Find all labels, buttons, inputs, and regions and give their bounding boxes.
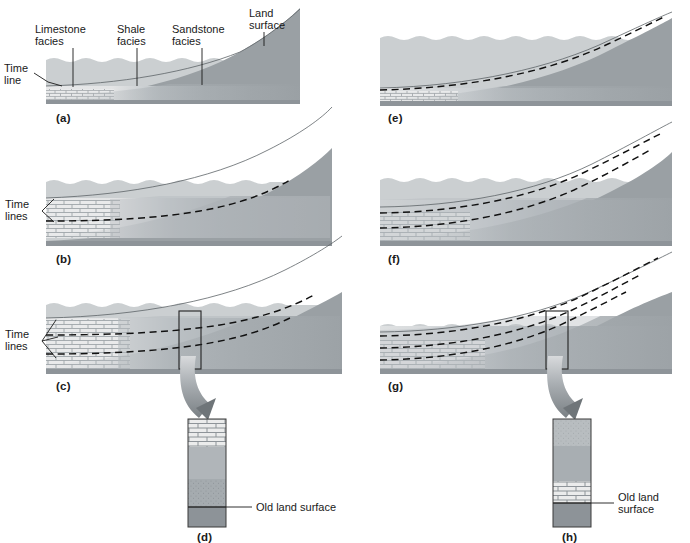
label-time-lines-b-1: Time [5, 198, 29, 210]
label-time-line-2: line [4, 74, 21, 86]
panel-f: (f) [380, 122, 672, 265]
label-old-land-surface-h-1: Old land [618, 491, 659, 503]
panel-b-old-land-surface [46, 241, 332, 246]
panel-letter-f: (f) [388, 253, 400, 265]
panel-h-layer-old-land-surface [553, 503, 591, 527]
panel-letter-a: (a) [56, 112, 71, 124]
label-time-lines-c-2: lines [5, 340, 28, 352]
panel-d-layer-shale [188, 447, 226, 479]
label-shale-facies-line1: Shale [117, 23, 145, 35]
panel-g-old-land-surface [380, 369, 672, 374]
label-limestone-facies-line2: facies [35, 35, 64, 47]
panel-h-layer-sandstone [553, 419, 591, 446]
label-limestone-facies-line1: Limestone [35, 23, 86, 35]
label-land-surface-line2: surface [249, 19, 285, 31]
label-old-land-surface-h-2: surface [618, 503, 654, 515]
panel-f-old-land-surface [380, 241, 672, 246]
panel-a: Limestone facies Shale facies Sandstone … [4, 7, 300, 124]
panel-d-layer-limestone [188, 419, 226, 447]
panel-h-layer-limestone [553, 481, 591, 503]
panel-d-layer-old-land-surface [188, 507, 226, 527]
panel-letter-e: (e) [388, 112, 403, 124]
figure-root: Limestone facies Shale facies Sandstone … [0, 0, 690, 543]
panel-letter-g: (g) [388, 380, 403, 392]
panel-e: (e) [380, 12, 672, 124]
label-time-lines-c-1: Time [5, 328, 29, 340]
label-land-surface-line1: Land [249, 7, 273, 19]
label-time-lines-b-2: lines [5, 210, 28, 222]
panel-g: (g) [380, 252, 672, 420]
panel-letter-c: (c) [56, 380, 71, 392]
label-time-line-1: Time [4, 62, 28, 74]
panel-a-old-land-surface [46, 100, 300, 104]
facies-diagram-svg: Limestone facies Shale facies Sandstone … [0, 0, 690, 543]
label-sandstone-facies-line1: Sandstone [172, 23, 225, 35]
panel-d-layer-sandstone [188, 479, 226, 507]
panel-letter-h: (h) [562, 531, 577, 543]
panel-e-old-land-surface [380, 101, 672, 106]
panel-h: Old land surface (h) [553, 419, 659, 543]
label-shale-facies-line2: facies [117, 35, 146, 47]
panel-letter-d: (d) [197, 531, 212, 543]
panel-d: Old land surface (d) [188, 419, 336, 543]
label-old-land-surface-d: Old land surface [256, 501, 336, 513]
panel-h-layer-shale [553, 446, 591, 481]
panel-letter-b: (b) [56, 253, 71, 265]
label-sandstone-facies-line2: facies [172, 35, 201, 47]
panel-b: Time lines (b) [5, 107, 332, 265]
